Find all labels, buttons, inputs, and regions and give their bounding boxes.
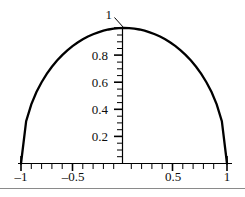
peak-label-leader-line <box>115 18 124 28</box>
x-tick-label-1: 1 <box>212 170 242 183</box>
x-tick-label-0-5: 0.5 <box>152 170 194 183</box>
x-axis-minor-ticks <box>31 164 213 170</box>
y-tick-label-0-6: 0.6 <box>72 76 108 89</box>
y-tick-label-0-2: 0.2 <box>72 130 108 143</box>
plot-canvas <box>0 0 245 197</box>
semicircle-plot-figure: 0.2 0.4 0.6 0.8 1 –1 –0.5 0.5 1 <box>0 0 245 197</box>
x-tick-label-neg-1: –1 <box>5 170 37 183</box>
page-bottom-rule <box>0 188 245 189</box>
y-tick-label-1-callout: 1 <box>88 8 112 21</box>
y-tick-label-0-4: 0.4 <box>72 103 108 116</box>
semicircle-curve <box>21 28 227 164</box>
x-tick-label-neg-0-5: –0.5 <box>52 170 94 183</box>
y-axis-major-ticks <box>114 28 123 136</box>
y-tick-label-0-8: 0.8 <box>72 49 108 62</box>
y-axis-minor-ticks <box>117 35 123 157</box>
